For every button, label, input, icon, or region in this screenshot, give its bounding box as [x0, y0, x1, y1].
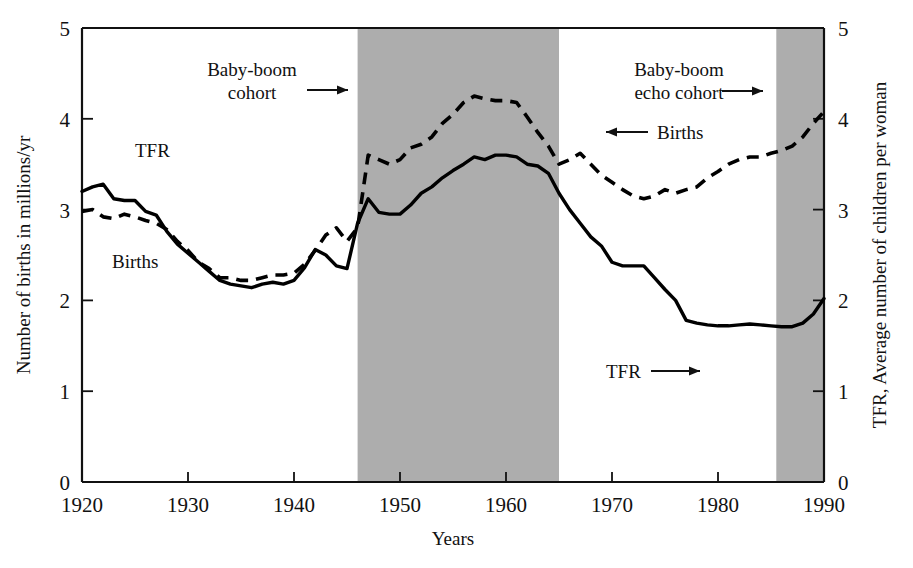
y-tick-label-left: 2	[60, 289, 71, 313]
cohort-band	[776, 28, 824, 482]
y-tick-label-left: 4	[60, 108, 71, 132]
births-inline-label: Births	[112, 251, 158, 272]
tfr-inline-label: TFR	[135, 140, 170, 161]
x-tick-label: 1980	[697, 493, 739, 517]
x-tick-label: 1990	[803, 493, 845, 517]
y-tick-label-right: 0	[838, 471, 849, 495]
y-tick-label-right: 4	[838, 108, 849, 132]
x-tick-label: 1950	[379, 493, 421, 517]
baby-boom-cohort-label-line1: Baby-boom	[207, 59, 297, 80]
cohort-band	[358, 28, 559, 482]
baby-boom-cohort-label-line2: cohort	[228, 82, 277, 103]
x-tick-label: 1930	[167, 493, 209, 517]
births-pointer-label: Births	[657, 122, 703, 143]
x-tick-label: 1920	[61, 493, 103, 517]
chart-canvas: 19201930194019501960197019801990 012345 …	[0, 0, 913, 568]
y-tick-label-left: 3	[60, 199, 71, 223]
x-tick-label: 1940	[273, 493, 315, 517]
x-axis-title: Years	[432, 528, 474, 549]
y-tick-label-right: 3	[838, 199, 849, 223]
y-tick-label-left: 0	[60, 471, 71, 495]
echo-cohort-label-line1: Baby-boom	[634, 59, 724, 80]
y-tick-label-left: 5	[60, 17, 71, 41]
x-tick-label: 1960	[485, 493, 527, 517]
births-and-tfr-line-chart: 19201930194019501960197019801990 012345 …	[0, 0, 913, 568]
x-tick-label: 1970	[591, 493, 633, 517]
y-tick-label-right: 2	[838, 289, 849, 313]
y-axis-left-title: Number of births in millions/yr	[13, 135, 34, 374]
y-axis-right-title: TFR, Average number of children per woma…	[869, 81, 890, 428]
tfr-pointer-label: TFR	[606, 361, 641, 382]
y-tick-label-right: 1	[838, 380, 849, 404]
echo-cohort-label-line2: echo cohort	[634, 82, 724, 103]
y-tick-label-left: 1	[60, 380, 71, 404]
y-tick-label-right: 5	[838, 17, 849, 41]
